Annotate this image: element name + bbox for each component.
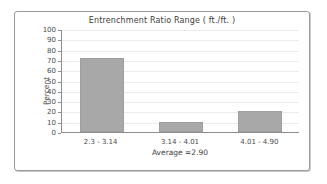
y-tick-label: 40	[47, 88, 56, 96]
y-tick-label: 80	[47, 47, 56, 55]
y-tick-mark	[58, 82, 61, 83]
y-tick-mark	[58, 40, 61, 41]
x-tick-label: 2.3 - 3.14	[84, 138, 118, 146]
y-tick-label: 90	[47, 36, 56, 44]
y-tick-label: 20	[47, 108, 56, 116]
plot-wrap: 1009080706050403020100 2.3 - 3.143.14 - …	[61, 30, 299, 133]
y-tick-label: 50	[47, 78, 56, 86]
x-tick-label: 3.14 - 4.01	[161, 138, 199, 146]
y-tick-mark	[58, 133, 61, 134]
y-tick-label: 0	[52, 129, 56, 137]
y-tick-label: 10	[47, 119, 56, 127]
y-tick-mark	[58, 102, 61, 103]
y-tick-mark	[58, 61, 61, 62]
bar-series	[62, 30, 299, 132]
y-tick-mark	[58, 51, 61, 52]
x-tick-label: 4.01 - 4.90	[240, 138, 278, 146]
chart-frame: Entrenchment Ratio Range ( ft./ft. ) Per…	[14, 11, 310, 171]
y-tick-mark	[58, 92, 61, 93]
chart-title: Entrenchment Ratio Range ( ft./ft. )	[15, 16, 309, 25]
bar	[159, 122, 203, 132]
y-tick-label: 70	[47, 57, 56, 65]
bar	[80, 58, 124, 132]
plot-area	[61, 30, 299, 133]
y-tick-label: 30	[47, 98, 56, 106]
y-tick-mark	[58, 71, 61, 72]
bar	[238, 111, 282, 132]
y-tick-mark	[58, 30, 61, 31]
y-tick-mark	[58, 112, 61, 113]
y-tick-label: 100	[43, 26, 56, 34]
y-tick-label: 60	[47, 67, 56, 75]
y-tick-mark	[58, 123, 61, 124]
x-axis-title: Average =2.90	[61, 148, 299, 157]
